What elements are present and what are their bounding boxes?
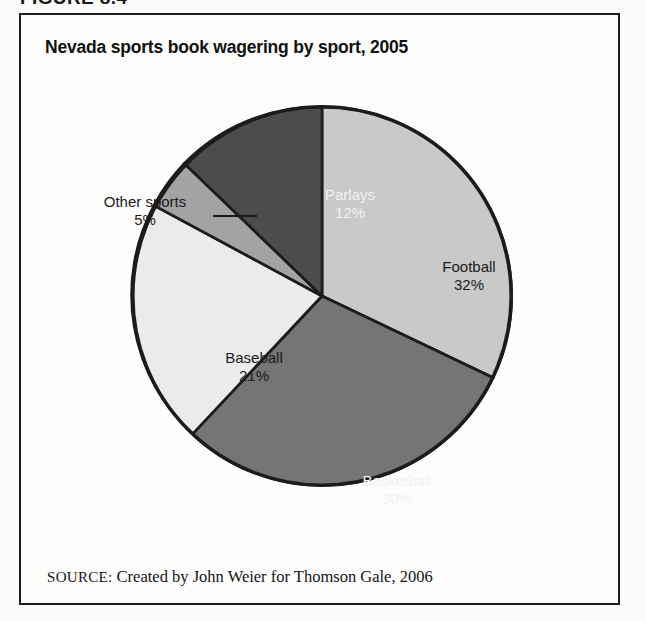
slice-label-basketball: Basketball 30% bbox=[337, 472, 457, 508]
leader-line-other-sports bbox=[213, 215, 257, 217]
slice-label-other-sports-name: Other sports bbox=[83, 193, 207, 211]
figure-box: Nevada sports book wagering by sport, 20… bbox=[19, 13, 620, 605]
slice-label-football-name: Football bbox=[421, 258, 517, 276]
slice-label-baseball-value: 21% bbox=[199, 367, 309, 385]
source-text: Created by John Weier for Thomson Gale, … bbox=[117, 567, 433, 586]
pie-chart: Football 32% Basketball 30% Baseball 21%… bbox=[21, 15, 622, 607]
slice-label-parlays-name: Parlays bbox=[302, 186, 398, 204]
slice-label-parlays: Parlays 12% bbox=[302, 186, 398, 222]
pie-chart-svg bbox=[129, 103, 515, 489]
slice-label-parlays-value: 12% bbox=[302, 204, 398, 222]
slice-label-baseball-name: Baseball bbox=[199, 349, 309, 367]
slice-label-football-value: 32% bbox=[421, 276, 517, 294]
slice-label-basketball-name: Basketball bbox=[337, 472, 457, 490]
slice-label-other-sports-value: 5% bbox=[83, 211, 207, 229]
source-keyword: SOURCE: bbox=[47, 569, 112, 585]
slice-label-basketball-value: 30% bbox=[337, 490, 457, 508]
source-note: SOURCE: Created by John Weier for Thomso… bbox=[47, 567, 433, 587]
figure-header: FIGURE 8.4 bbox=[20, 0, 127, 5]
slice-label-football: Football 32% bbox=[421, 258, 517, 294]
slice-label-other-sports: Other sports 5% bbox=[83, 193, 207, 229]
slice-label-baseball: Baseball 21% bbox=[199, 349, 309, 385]
